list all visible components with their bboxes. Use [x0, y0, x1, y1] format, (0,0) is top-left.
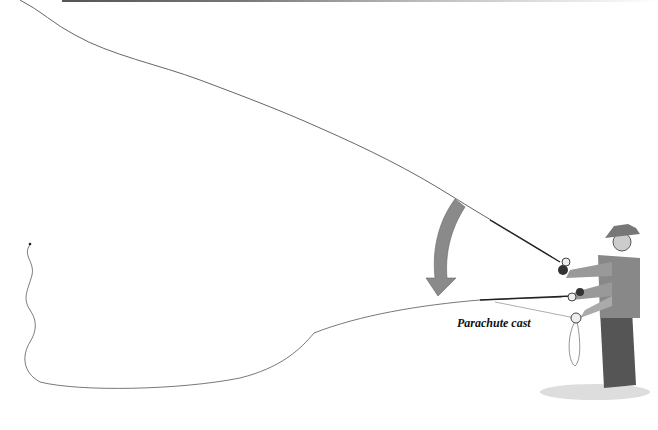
fly-icon [29, 243, 32, 246]
curved-arrow-icon [426, 199, 465, 296]
parachute-cast-illustration: Parachute cast [0, 0, 658, 430]
upper-rod [490, 220, 560, 262]
upper-fly-line [20, 0, 552, 257]
illustration-svg [0, 0, 658, 430]
angler-figure [540, 224, 650, 400]
lower-rod [480, 296, 572, 300]
line-loop [569, 320, 580, 366]
figure-caption: Parachute cast [457, 316, 531, 331]
